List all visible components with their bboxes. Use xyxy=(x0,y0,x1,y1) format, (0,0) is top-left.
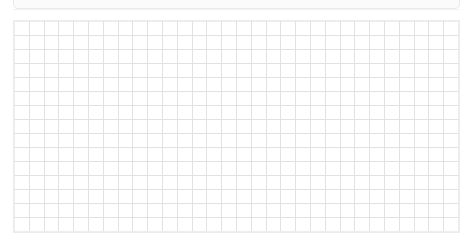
grid-cell[interactable] xyxy=(370,134,385,148)
grid-cell[interactable] xyxy=(236,64,251,78)
grid-cell[interactable] xyxy=(103,64,118,78)
grid-cell[interactable] xyxy=(414,22,429,36)
grid-cell[interactable] xyxy=(355,148,370,162)
grid-cell[interactable] xyxy=(118,36,133,50)
grid-cell[interactable] xyxy=(88,148,103,162)
grid-cell[interactable] xyxy=(429,22,444,36)
grid-cell[interactable] xyxy=(133,120,148,134)
grid-cell[interactable] xyxy=(29,64,44,78)
grid-cell[interactable] xyxy=(281,64,296,78)
grid-cell[interactable] xyxy=(103,106,118,120)
grid-cell[interactable] xyxy=(74,176,89,190)
grid-cell[interactable] xyxy=(429,190,444,204)
grid-cell[interactable] xyxy=(325,78,340,92)
grid-cell[interactable] xyxy=(118,120,133,134)
grid-cell[interactable] xyxy=(74,218,89,232)
grid-cell[interactable] xyxy=(88,36,103,50)
grid-cell[interactable] xyxy=(74,120,89,134)
grid-cell[interactable] xyxy=(103,134,118,148)
grid-cell[interactable] xyxy=(118,50,133,64)
grid-cell[interactable] xyxy=(103,120,118,134)
grid-cell[interactable] xyxy=(251,204,266,218)
grid-cell[interactable] xyxy=(370,50,385,64)
grid-cell[interactable] xyxy=(340,162,355,176)
grid-cell[interactable] xyxy=(118,134,133,148)
grid-cell[interactable] xyxy=(74,22,89,36)
grid-cell[interactable] xyxy=(281,22,296,36)
grid-cell[interactable] xyxy=(399,92,414,106)
grid-cell[interactable] xyxy=(15,204,30,218)
grid-cell[interactable] xyxy=(266,204,281,218)
grid-cell[interactable] xyxy=(340,92,355,106)
grid-cell[interactable] xyxy=(118,162,133,176)
grid-cell[interactable] xyxy=(384,92,399,106)
grid-cell[interactable] xyxy=(414,36,429,50)
grid-cell[interactable] xyxy=(414,204,429,218)
grid-cell[interactable] xyxy=(281,36,296,50)
grid-cell[interactable] xyxy=(325,22,340,36)
grid-cell[interactable] xyxy=(162,162,177,176)
grid-cell[interactable] xyxy=(103,36,118,50)
grid-cell[interactable] xyxy=(103,50,118,64)
grid-cell[interactable] xyxy=(88,64,103,78)
grid-cell[interactable] xyxy=(340,120,355,134)
grid-cell[interactable] xyxy=(148,106,163,120)
grid-cell[interactable] xyxy=(266,36,281,50)
grid-cell[interactable] xyxy=(177,120,192,134)
grid-cell[interactable] xyxy=(88,50,103,64)
grid-cell[interactable] xyxy=(444,148,459,162)
grid-cell[interactable] xyxy=(15,64,30,78)
grid-cell[interactable] xyxy=(192,22,207,36)
grid-cell[interactable] xyxy=(251,92,266,106)
grid-cell[interactable] xyxy=(296,120,311,134)
grid-cell[interactable] xyxy=(133,78,148,92)
grid-cell[interactable] xyxy=(355,190,370,204)
grid-cell[interactable] xyxy=(414,120,429,134)
grid-cell[interactable] xyxy=(29,148,44,162)
grid-cell[interactable] xyxy=(222,22,237,36)
grid-cell[interactable] xyxy=(251,148,266,162)
grid-cell[interactable] xyxy=(88,204,103,218)
grid-cell[interactable] xyxy=(148,50,163,64)
grid-cell[interactable] xyxy=(118,190,133,204)
grid-cell[interactable] xyxy=(44,64,59,78)
grid-cell[interactable] xyxy=(384,176,399,190)
grid-cell[interactable] xyxy=(74,134,89,148)
grid-cell[interactable] xyxy=(148,162,163,176)
grid-cell[interactable] xyxy=(103,190,118,204)
grid-cell[interactable] xyxy=(310,134,325,148)
grid-cell[interactable] xyxy=(251,78,266,92)
grid-cell[interactable] xyxy=(15,22,30,36)
grid-cell[interactable] xyxy=(444,120,459,134)
grid-cell[interactable] xyxy=(15,162,30,176)
grid-cell[interactable] xyxy=(444,176,459,190)
grid-cell[interactable] xyxy=(251,64,266,78)
grid-cell[interactable] xyxy=(222,134,237,148)
grid-cell[interactable] xyxy=(355,176,370,190)
grid-cell[interactable] xyxy=(355,22,370,36)
grid-cell[interactable] xyxy=(399,134,414,148)
grid-cell[interactable] xyxy=(251,120,266,134)
grid-cell[interactable] xyxy=(103,92,118,106)
grid-cell[interactable] xyxy=(118,176,133,190)
grid-cell[interactable] xyxy=(384,50,399,64)
grid-cell[interactable] xyxy=(429,36,444,50)
grid-cell[interactable] xyxy=(177,162,192,176)
grid-cell[interactable] xyxy=(177,176,192,190)
grid-cell[interactable] xyxy=(207,148,222,162)
grid-cell[interactable] xyxy=(399,190,414,204)
grid-cell[interactable] xyxy=(74,64,89,78)
grid-cell[interactable] xyxy=(207,204,222,218)
grid-cell[interactable] xyxy=(429,134,444,148)
grid-cell[interactable] xyxy=(296,64,311,78)
grid-cell[interactable] xyxy=(266,106,281,120)
grid-cell[interactable] xyxy=(399,78,414,92)
grid-cell[interactable] xyxy=(133,36,148,50)
grid-cell[interactable] xyxy=(162,36,177,50)
grid-cell[interactable] xyxy=(296,36,311,50)
grid-cell[interactable] xyxy=(29,162,44,176)
grid-cell[interactable] xyxy=(148,64,163,78)
grid-cell[interactable] xyxy=(399,218,414,232)
grid-cell[interactable] xyxy=(103,148,118,162)
grid-cell[interactable] xyxy=(59,204,74,218)
